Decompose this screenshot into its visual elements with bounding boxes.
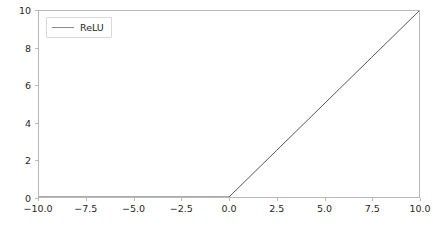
- x-tick-mark: [181, 198, 182, 201]
- y-tick-mark: [35, 48, 38, 49]
- x-tick-label: −2.5: [170, 203, 193, 214]
- x-tick-label: −5.0: [122, 203, 145, 214]
- y-tick-label: 4: [0, 117, 31, 128]
- x-tick-label: −10.0: [23, 203, 52, 214]
- relu-line-series: [39, 11, 419, 197]
- relu-curve: [39, 11, 419, 197]
- x-tick-label: 7.5: [365, 203, 380, 214]
- x-tick-mark: [86, 198, 87, 201]
- plot-area: ReLU: [38, 10, 420, 198]
- x-tick-label: 10.0: [409, 203, 430, 214]
- x-tick-mark: [229, 198, 230, 201]
- x-tick-mark: [325, 198, 326, 201]
- y-tick-mark: [35, 160, 38, 161]
- y-tick-label: 2: [0, 155, 31, 166]
- y-tick-label: 6: [0, 80, 31, 91]
- x-tick-mark: [134, 198, 135, 201]
- legend-line-sample-relu: [52, 27, 74, 28]
- y-tick-mark: [35, 123, 38, 124]
- x-tick-mark: [277, 198, 278, 201]
- y-tick-mark: [35, 198, 38, 199]
- x-tick-mark: [38, 198, 39, 201]
- x-tick-label: 0.0: [221, 203, 236, 214]
- y-tick-mark: [35, 10, 38, 11]
- y-tick-label: 10: [0, 5, 31, 16]
- relu-chart-figure: ReLU −10.0−7.5−5.0−2.50.02.55.07.510.0 0…: [0, 0, 433, 230]
- x-tick-label: 5.0: [317, 203, 332, 214]
- x-tick-label: 2.5: [269, 203, 284, 214]
- y-tick-label: 8: [0, 42, 31, 53]
- x-tick-mark: [420, 198, 421, 201]
- x-tick-label: −7.5: [74, 203, 97, 214]
- x-tick-mark: [372, 198, 373, 201]
- y-tick-label: 0: [0, 193, 31, 204]
- legend-label-relu: ReLU: [80, 22, 104, 33]
- y-tick-mark: [35, 85, 38, 86]
- legend: ReLU: [46, 17, 112, 38]
